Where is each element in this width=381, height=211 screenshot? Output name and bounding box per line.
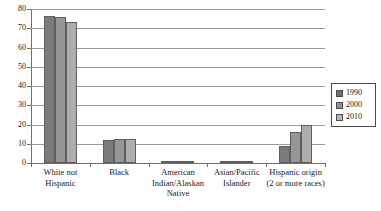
y-tick-label: 40 [2, 82, 26, 90]
bar [183, 161, 194, 163]
bar [231, 161, 242, 163]
bar [290, 132, 301, 163]
bar-group [207, 9, 266, 163]
legend-label: 2010 [346, 113, 362, 121]
x-tick-mark [149, 163, 150, 167]
bar [301, 125, 312, 164]
legend-swatch-icon [336, 90, 343, 97]
x-axis-tick-labels: White notHispanicBlackAmericanIndian/Ala… [31, 167, 325, 211]
y-tick-label: 20 [2, 121, 26, 129]
x-tick-label-line: Hispanic [23, 178, 98, 189]
legend-item-2010[interactable]: 2010 [336, 111, 372, 123]
gridline-0 [31, 163, 325, 164]
bar [279, 146, 290, 163]
y-tick-label: 0 [2, 159, 26, 167]
bar [161, 161, 172, 163]
x-tick-mark [325, 163, 326, 167]
bar [44, 16, 55, 163]
bar-group [266, 9, 325, 163]
bar-group [90, 9, 149, 163]
x-tick-mark [90, 163, 91, 167]
y-tick-mark-80 [27, 9, 31, 10]
legend-label: 1990 [346, 89, 362, 97]
y-tick-label: 70 [2, 24, 26, 32]
x-tick-label-line: Native [141, 188, 216, 199]
bar [114, 139, 125, 163]
y-tick-mark-20 [27, 125, 31, 126]
bar-chart: 80706050403020100 White notHispanicBlack… [0, 0, 381, 211]
legend-swatch-icon [336, 114, 343, 121]
x-tick-mark [31, 163, 32, 167]
y-tick-mark-10 [27, 144, 31, 145]
bar [220, 161, 231, 163]
y-tick-mark-70 [27, 28, 31, 29]
plot-area [31, 9, 325, 163]
x-tick-label-line: (2 or more races) [258, 178, 333, 189]
legend-swatch-icon [336, 102, 343, 109]
bar [103, 140, 114, 163]
bar-group [149, 9, 208, 163]
legend-label: 2000 [346, 101, 362, 109]
bar-group [31, 9, 90, 163]
legend-item-2000[interactable]: 2000 [336, 99, 372, 111]
bar [66, 22, 77, 163]
x-tick-mark [207, 163, 208, 167]
y-tick-mark-40 [27, 86, 31, 87]
bar [55, 17, 66, 163]
x-tick-label-line: Hispanic origin [258, 167, 333, 178]
bar [172, 161, 183, 163]
x-tick-label: Hispanic origin(2 or more races) [258, 167, 333, 188]
bar [125, 139, 136, 163]
y-tick-label: 10 [2, 140, 26, 148]
x-tick-mark [266, 163, 267, 167]
y-tick-label: 30 [2, 101, 26, 109]
legend-item-1990[interactable]: 1990 [336, 87, 372, 99]
bar [242, 161, 253, 164]
y-tick-mark-30 [27, 105, 31, 106]
y-tick-mark-50 [27, 67, 31, 68]
y-tick-mark-60 [27, 48, 31, 49]
y-tick-label: 80 [2, 5, 26, 13]
chart-legend: 199020002010 [331, 83, 376, 127]
y-tick-label: 50 [2, 63, 26, 71]
y-tick-label: 60 [2, 44, 26, 52]
